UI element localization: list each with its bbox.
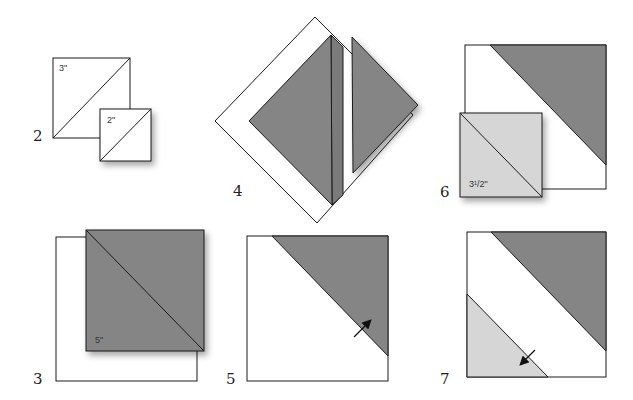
step-number-3: 3: [33, 370, 43, 388]
step-4: 4: [215, 17, 418, 223]
step-number-4: 4: [233, 182, 243, 200]
dimension-label-3-5in: 3¹/2": [469, 179, 488, 189]
quilt-diagram: 3" 2" 2 4 3¹/2" 6 5" 3 5: [0, 0, 633, 400]
dimension-label-2in: 2": [107, 115, 115, 125]
step-5: 5: [226, 236, 388, 388]
step-7: 7: [440, 232, 606, 388]
step-number-6: 6: [440, 183, 450, 201]
step-6: 3¹/2" 6: [440, 45, 606, 201]
dimension-label-5in: 5": [95, 335, 103, 345]
step-number-2: 2: [33, 127, 43, 145]
step-number-5: 5: [226, 370, 236, 388]
step-number-7: 7: [440, 370, 450, 388]
step-2: 3" 2" 2: [33, 58, 151, 161]
step-3: 5" 3: [33, 230, 204, 388]
dimension-label-3in: 3": [59, 63, 67, 73]
